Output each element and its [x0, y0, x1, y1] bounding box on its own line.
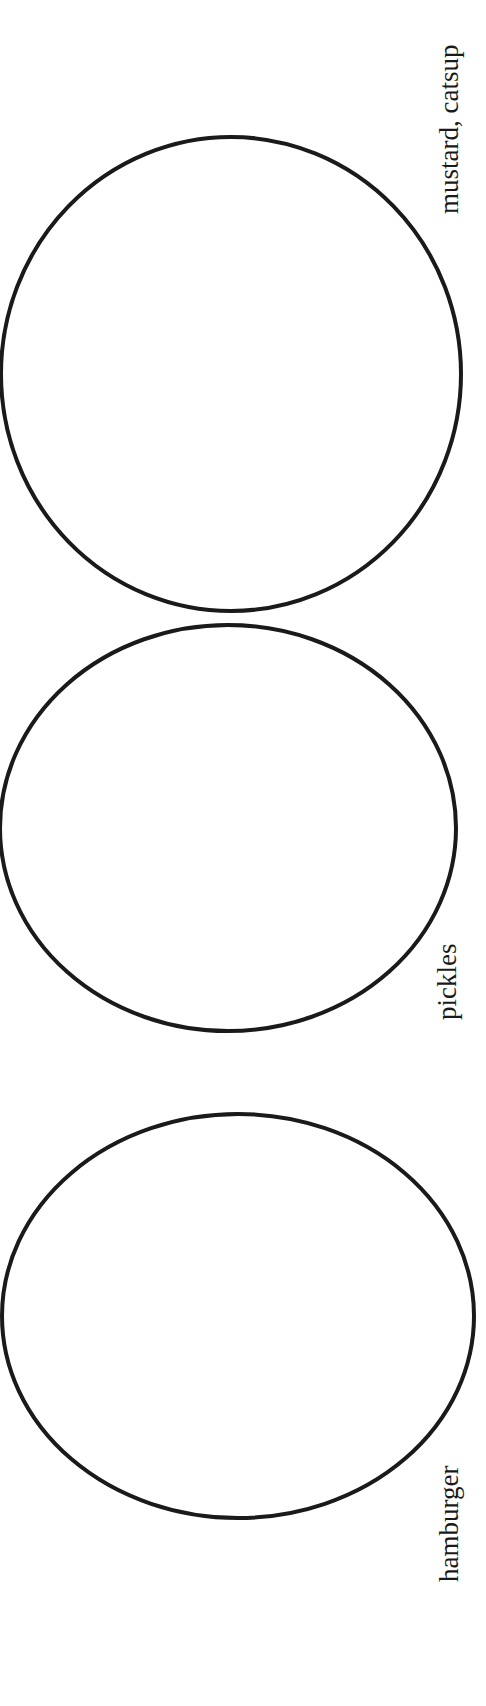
- circles-canvas: [0, 0, 486, 1706]
- circle-mustard-catsup: [1, 137, 461, 611]
- label-pickles: pickles: [434, 944, 461, 1020]
- circle-pickles: [0, 625, 456, 1031]
- worksheet-page: mustard, catsup pickles hamburger: [0, 0, 486, 1706]
- circle-hamburger: [2, 1114, 474, 1518]
- label-hamburger: hamburger: [436, 1466, 463, 1582]
- label-mustard-catsup: mustard, catsup: [436, 45, 463, 214]
